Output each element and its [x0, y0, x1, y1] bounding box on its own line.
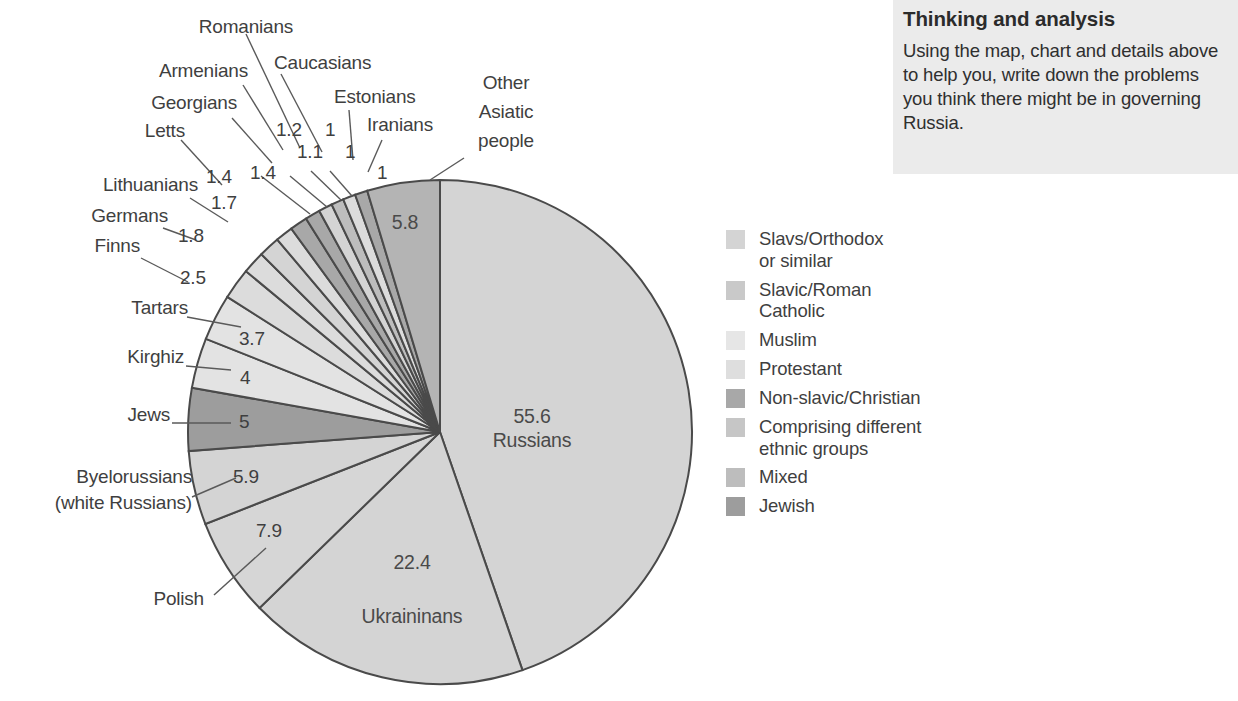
callout-label-byelorussians-sub: (white Russians) [10, 492, 192, 513]
callout-label-letts: Letts [40, 120, 185, 141]
legend-swatch [726, 468, 745, 487]
legend-swatch [726, 360, 745, 379]
legend-label: Protestant [759, 358, 842, 380]
callout-value-caucasians: 1.1 [297, 141, 323, 163]
slice-label-russians-name: Russians [457, 428, 607, 452]
legend-item[interactable]: Protestant [726, 358, 1026, 380]
callout-value-jews: 5 [239, 411, 249, 433]
slice-label-ukraininans-value: 22.4 [342, 550, 482, 574]
leader-line-thin-c [311, 171, 341, 200]
legend-swatch [726, 389, 745, 408]
leader-line-other-asiatic [430, 158, 464, 180]
legend-swatch [726, 418, 745, 437]
callout-value-finns: 2.5 [180, 267, 206, 289]
callout-label-germans: Germans [8, 205, 168, 226]
legend-label: Jewish [759, 495, 815, 517]
callout-label-finns: Finns [14, 235, 140, 256]
legend-item[interactable]: Muslim [726, 329, 1026, 351]
legend-item[interactable]: Slavic/RomanCatholic [726, 279, 1026, 323]
legend-swatch [726, 281, 745, 300]
callout-label-jews: Jews [50, 404, 170, 425]
callout-value-armenians: 1.4 [250, 162, 276, 184]
callout-value-georgians: 1.4 [206, 166, 232, 188]
callout-label-people: people [440, 130, 572, 151]
callout-label-romanians: Romanians [171, 16, 321, 37]
callout-label-kirghiz: Kirghiz [50, 346, 184, 367]
callout-value-lithuanians: 1.7 [211, 192, 237, 214]
callout-label-armenians: Armenians [48, 60, 248, 81]
legend-item[interactable]: Comprising differentethnic groups [726, 416, 1026, 460]
legend: Slavs/Orthodoxor similarSlavic/RomanCath… [726, 228, 1026, 524]
legend-label: Comprising differentethnic groups [759, 416, 921, 460]
slice-label-ukraininans-name: Ukraininans [342, 604, 482, 628]
legend-swatch [726, 331, 745, 350]
callout-value-romanians: 1.2 [276, 119, 302, 141]
callout-label-byelorussians: Byelorussians [10, 466, 192, 487]
callout-label-georgians: Georgians [40, 92, 237, 113]
legend-label: Mixed [759, 466, 808, 488]
callout-value-kirghiz: 4 [240, 367, 250, 389]
callout-label-iranians: Iranians [367, 114, 433, 135]
callout-label-asiatic: Asiatic [440, 101, 572, 122]
callout-value-iranians: 1 [345, 141, 355, 163]
legend-item[interactable]: Non-slavic/Christian [726, 387, 1026, 409]
legend-label: Slavs/Orthodoxor similar [759, 228, 883, 272]
legend-label: Muslim [759, 329, 817, 351]
slice-label-other-asiatic-value: 5.8 [370, 210, 440, 234]
leader-line-georgians [232, 118, 272, 163]
callout-label-caucasians: Caucasians [274, 52, 371, 73]
legend-label: Non-slavic/Christian [759, 387, 921, 409]
callout-label-tartars: Tartars [50, 297, 188, 318]
callout-value-tartars: 3.7 [239, 328, 265, 350]
legend-swatch [726, 497, 745, 516]
callout-label-estonians: Estonians [334, 86, 416, 107]
legend-swatch [726, 230, 745, 249]
legend-item[interactable]: Slavs/Orthodoxor similar [726, 228, 1026, 272]
callout-value-polish: 7.9 [256, 520, 282, 542]
callout-value-letts: 1 [377, 162, 387, 184]
callout-value-byelorussians: 5.9 [233, 466, 259, 488]
callout-label-polish: Polish [72, 588, 204, 609]
callout-label-lithuanians: Lithuanians [20, 174, 198, 195]
legend-item[interactable]: Mixed [726, 466, 1026, 488]
legend-label: Slavic/RomanCatholic [759, 279, 871, 323]
legend-item[interactable]: Jewish [726, 495, 1026, 517]
slice-label-russians-value: 55.6 [457, 404, 607, 428]
chart-page: Thinking and analysis Using the map, cha… [0, 0, 1238, 701]
callout-value-estonians: 1 [325, 119, 335, 141]
callout-value-germans: 1.8 [178, 225, 204, 247]
callout-label-other: Other [440, 72, 572, 93]
